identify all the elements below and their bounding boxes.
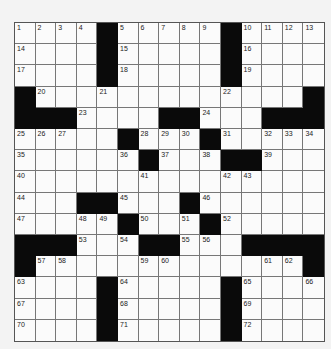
grid-cell[interactable]: 30 [180,129,201,150]
grid-cell[interactable]: 29 [159,129,180,150]
grid-cell[interactable]: 13 [303,23,324,44]
grid-cell[interactable]: 8 [180,23,201,44]
grid-cell[interactable] [118,171,139,192]
grid-cell[interactable]: 3 [56,23,77,44]
grid-cell[interactable] [283,193,304,214]
grid-cell[interactable]: 17 [15,65,36,86]
grid-cell[interactable] [283,299,304,320]
grid-cell[interactable] [180,171,201,192]
grid-cell[interactable]: 40 [15,171,36,192]
grid-cell[interactable] [36,193,57,214]
grid-cell[interactable] [139,320,160,341]
grid-cell[interactable] [97,171,118,192]
grid-cell[interactable]: 72 [242,320,263,341]
grid-cell[interactable] [180,87,201,108]
grid-cell[interactable] [221,235,242,256]
grid-cell[interactable] [242,87,263,108]
grid-cell[interactable] [77,44,98,65]
grid-cell[interactable]: 50 [139,214,160,235]
grid-cell[interactable] [139,193,160,214]
grid-cell[interactable] [283,320,304,341]
grid-cell[interactable] [56,320,77,341]
grid-cell[interactable]: 25 [15,129,36,150]
grid-cell[interactable]: 16 [242,44,263,65]
grid-cell[interactable] [262,87,283,108]
grid-cell[interactable] [242,129,263,150]
grid-cell[interactable]: 9 [200,23,221,44]
grid-cell[interactable]: 20 [36,87,57,108]
grid-cell[interactable]: 52 [221,214,242,235]
grid-cell[interactable] [200,87,221,108]
grid-cell[interactable]: 15 [118,44,139,65]
grid-cell[interactable] [180,277,201,298]
grid-cell[interactable] [36,171,57,192]
grid-cell[interactable] [242,256,263,277]
grid-cell[interactable]: 61 [262,256,283,277]
grid-cell[interactable] [283,214,304,235]
grid-cell[interactable] [77,256,98,277]
grid-cell[interactable] [283,171,304,192]
grid-cell[interactable]: 32 [262,129,283,150]
grid-cell[interactable] [303,214,324,235]
grid-cell[interactable] [159,171,180,192]
grid-cell[interactable]: 12 [283,23,304,44]
grid-cell[interactable]: 23 [77,108,98,129]
grid-cell[interactable] [36,150,57,171]
grid-cell[interactable] [262,65,283,86]
grid-cell[interactable] [159,65,180,86]
grid-cell[interactable] [159,87,180,108]
grid-cell[interactable] [180,65,201,86]
grid-cell[interactable] [159,320,180,341]
grid-cell[interactable] [159,44,180,65]
grid-cell[interactable] [262,44,283,65]
grid-cell[interactable] [303,320,324,341]
grid-cell[interactable] [200,277,221,298]
grid-cell[interactable] [200,299,221,320]
grid-cell[interactable]: 57 [36,256,57,277]
grid-cell[interactable] [283,277,304,298]
grid-cell[interactable]: 60 [159,256,180,277]
grid-cell[interactable] [221,193,242,214]
grid-cell[interactable]: 69 [242,299,263,320]
grid-cell[interactable] [56,44,77,65]
grid-cell[interactable]: 14 [15,44,36,65]
grid-cell[interactable] [97,150,118,171]
grid-cell[interactable]: 47 [15,214,36,235]
grid-cell[interactable] [180,256,201,277]
grid-cell[interactable] [159,193,180,214]
grid-cell[interactable] [242,214,263,235]
grid-cell[interactable] [56,214,77,235]
grid-cell[interactable] [303,150,324,171]
grid-cell[interactable] [56,150,77,171]
grid-cell[interactable] [283,65,304,86]
grid-cell[interactable] [200,171,221,192]
grid-cell[interactable] [139,108,160,129]
grid-cell[interactable] [262,171,283,192]
grid-cell[interactable] [56,171,77,192]
grid-cell[interactable]: 22 [221,87,242,108]
grid-cell[interactable]: 56 [200,235,221,256]
grid-cell[interactable] [242,193,263,214]
grid-cell[interactable] [262,299,283,320]
grid-cell[interactable]: 1 [15,23,36,44]
grid-cell[interactable] [36,44,57,65]
grid-cell[interactable] [56,193,77,214]
grid-cell[interactable] [180,44,201,65]
grid-cell[interactable] [118,87,139,108]
grid-cell[interactable]: 71 [118,320,139,341]
grid-cell[interactable]: 6 [139,23,160,44]
grid-cell[interactable] [56,277,77,298]
grid-cell[interactable] [200,256,221,277]
grid-cell[interactable] [159,277,180,298]
grid-cell[interactable] [262,214,283,235]
grid-cell[interactable] [77,171,98,192]
grid-cell[interactable]: 10 [242,23,263,44]
grid-cell[interactable] [283,87,304,108]
grid-cell[interactable]: 55 [180,235,201,256]
grid-cell[interactable] [139,44,160,65]
grid-cell[interactable] [180,150,201,171]
grid-cell[interactable]: 37 [159,150,180,171]
grid-cell[interactable]: 33 [283,129,304,150]
grid-cell[interactable] [200,320,221,341]
grid-cell[interactable]: 49 [97,214,118,235]
